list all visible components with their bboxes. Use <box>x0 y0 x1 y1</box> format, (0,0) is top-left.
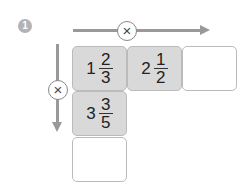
denominator: 3 <box>101 69 110 86</box>
multiply-icon-horizontal: × <box>117 21 137 41</box>
whole-part: 3 <box>86 104 95 124</box>
arrow-right-icon <box>200 25 210 35</box>
answer-cell-1-3[interactable] <box>182 46 237 91</box>
horizontal-arrow <box>73 29 203 32</box>
problem-number-badge: 1 <box>18 19 32 33</box>
cell-2-1: 3 35 <box>72 91 127 136</box>
numerator: 1 <box>156 51 165 68</box>
multiply-icon-vertical: × <box>48 80 68 100</box>
answer-cell-3-1[interactable] <box>72 137 127 182</box>
numerator: 2 <box>101 51 110 68</box>
arrow-down-icon <box>52 122 62 132</box>
whole-part: 1 <box>86 59 95 79</box>
cell-1-1: 1 23 <box>72 46 127 91</box>
denominator: 5 <box>101 114 110 131</box>
denominator: 2 <box>156 69 165 86</box>
numerator: 3 <box>101 96 110 113</box>
whole-part: 2 <box>141 59 150 79</box>
cell-1-2: 2 12 <box>127 46 182 91</box>
